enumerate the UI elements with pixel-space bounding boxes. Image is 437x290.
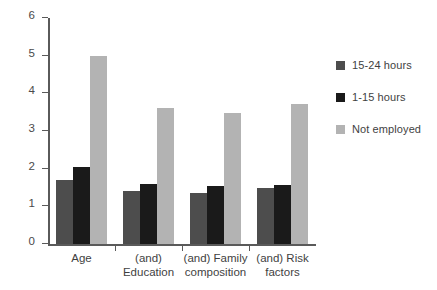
y-axis-tick-label: 6 xyxy=(28,9,35,21)
x-axis-label: (and) Risk factors xyxy=(249,252,316,279)
y-axis-tick: 1 xyxy=(42,205,48,206)
bar xyxy=(257,188,274,244)
y-axis-tick: 4 xyxy=(42,92,48,93)
bar-group xyxy=(190,113,241,244)
x-axis-label: (and) Education xyxy=(115,252,182,279)
plot-area: 0123456 xyxy=(48,18,316,246)
y-axis-tick-label: 3 xyxy=(28,122,35,134)
y-axis-tick-label: 0 xyxy=(28,235,35,247)
bar xyxy=(73,167,90,244)
y-axis-tick: 5 xyxy=(42,55,48,56)
legend-swatch-icon xyxy=(336,61,345,70)
y-axis-line xyxy=(48,18,50,246)
y-axis-tick-label: 4 xyxy=(28,84,35,96)
bar-group xyxy=(56,56,107,244)
y-axis-tick: 0 xyxy=(42,243,48,244)
legend-label: 1-15 hours xyxy=(352,91,406,103)
x-axis-label: (and) Family composition xyxy=(182,252,249,279)
legend-swatch-icon xyxy=(336,93,345,102)
x-axis-tick xyxy=(115,246,116,251)
legend-label: 15-24 hours xyxy=(352,59,412,71)
legend-item: Not employed xyxy=(336,116,421,142)
bar-group xyxy=(257,104,308,244)
bar-chart: 0123456 Age(and) Education(and) Family c… xyxy=(0,0,437,290)
x-axis-label: Age xyxy=(48,252,115,266)
y-axis-tick: 2 xyxy=(42,168,48,169)
y-axis-tick-label: 1 xyxy=(28,197,35,209)
chart-legend: 15-24 hours1-15 hoursNot employed xyxy=(336,52,421,148)
x-axis-tick xyxy=(182,246,183,251)
bar-group xyxy=(123,108,174,244)
y-axis-tick-label: 5 xyxy=(28,47,35,59)
legend-item: 15-24 hours xyxy=(336,52,421,78)
bar xyxy=(224,113,241,244)
x-axis-tick xyxy=(249,246,250,251)
bar xyxy=(90,56,107,244)
bar xyxy=(190,193,207,244)
y-axis-tick: 3 xyxy=(42,130,48,131)
bar xyxy=(207,186,224,244)
legend-swatch-icon xyxy=(336,125,345,134)
legend-item: 1-15 hours xyxy=(336,84,421,110)
legend-label: Not employed xyxy=(352,123,421,135)
bar xyxy=(157,108,174,244)
bar xyxy=(56,180,73,244)
bar xyxy=(140,184,157,244)
y-axis-tick-label: 2 xyxy=(28,160,35,172)
bar xyxy=(274,185,291,244)
bar xyxy=(291,104,308,244)
y-axis-tick: 6 xyxy=(42,17,48,18)
bar xyxy=(123,191,140,244)
